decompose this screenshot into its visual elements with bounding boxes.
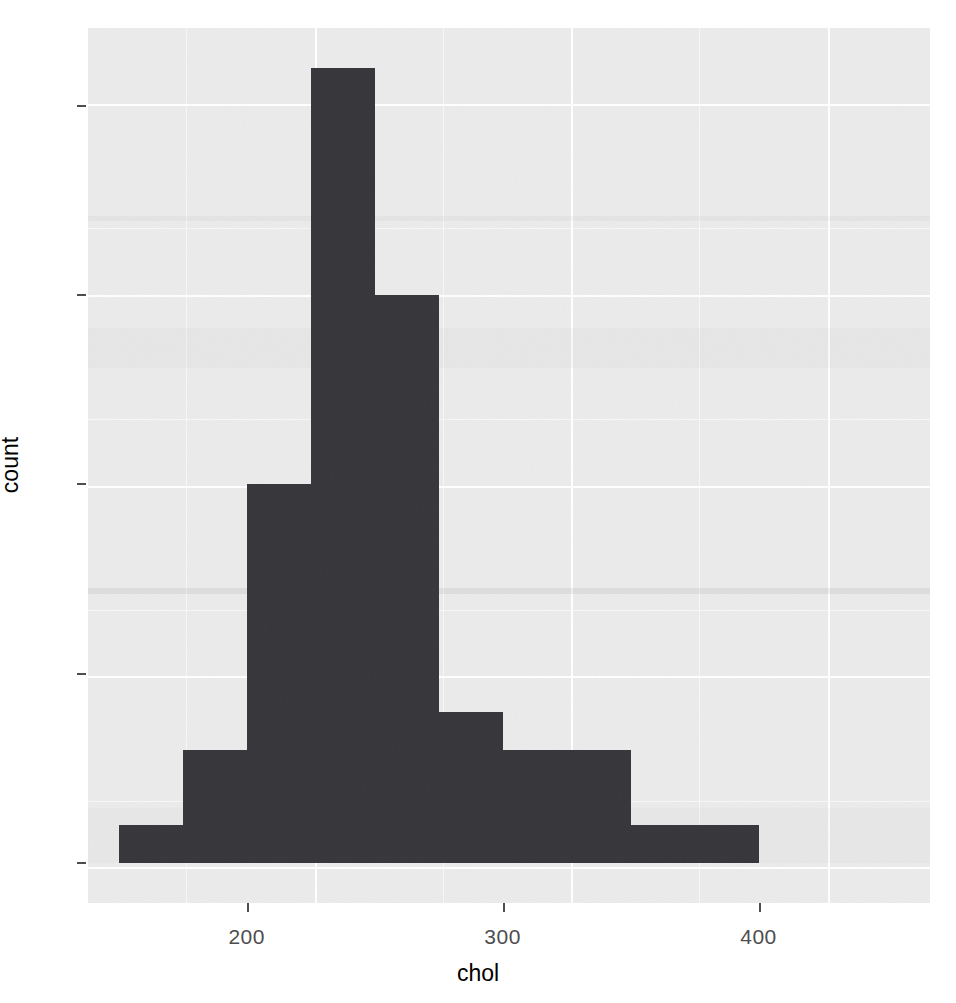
bars-layer <box>88 28 930 903</box>
x-tick-label: 300 <box>484 925 521 949</box>
x-axis-title: chol <box>0 960 956 987</box>
histogram-bar <box>119 825 183 863</box>
x-tick-label: 200 <box>228 925 265 949</box>
x-tick-mark <box>247 903 249 912</box>
y-tick-mark <box>77 673 86 675</box>
x-tick-mark <box>503 903 505 912</box>
y-tick-mark <box>77 294 86 296</box>
histogram-plot: 05101520 200300400 chol count <box>0 0 956 1003</box>
histogram-bar <box>311 68 375 863</box>
histogram-bar <box>567 750 631 864</box>
y-axis-title: count <box>0 437 24 493</box>
histogram-bar <box>695 825 759 863</box>
histogram-bar <box>375 295 439 863</box>
histogram-bar <box>503 750 567 864</box>
x-tick-mark <box>759 903 761 912</box>
y-tick-mark <box>77 105 86 107</box>
y-tick-mark <box>77 862 86 864</box>
x-tick-label: 400 <box>740 925 777 949</box>
histogram-bar <box>247 484 311 863</box>
histogram-bar <box>439 712 503 864</box>
y-axis: 05101520 <box>0 0 88 1003</box>
histogram-bar <box>183 750 247 864</box>
histogram-bar <box>631 825 695 863</box>
x-axis: 200300400 <box>88 903 930 963</box>
plot-panel <box>88 28 930 903</box>
y-tick-mark <box>77 483 86 485</box>
